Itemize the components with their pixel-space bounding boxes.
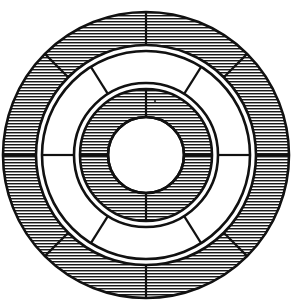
figure-root: Segmented concentric annulus diagram Lin… <box>0 0 291 303</box>
speck-layer <box>154 100 156 102</box>
ink-speck <box>154 100 156 102</box>
concentric-ring-diagram: Segmented concentric annulus diagram Lin… <box>0 0 291 303</box>
